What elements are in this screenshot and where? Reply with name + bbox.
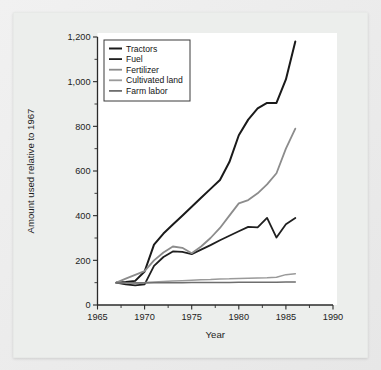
chart-container: 02004006008001,0001,200 1965197019751980… bbox=[0, 0, 381, 370]
legend-label-cultivated-land: Cultivated land bbox=[126, 75, 183, 85]
x-tick-label: 1975 bbox=[181, 312, 201, 322]
y-tick-label: 400 bbox=[75, 211, 90, 221]
line-chart: 02004006008001,0001,200 1965197019751980… bbox=[0, 0, 381, 370]
chart-legend: TractorsFuelFertilizerCultivated landFar… bbox=[104, 40, 190, 101]
figure-page: 02004006008001,0001,200 1965197019751980… bbox=[0, 0, 381, 370]
x-tick-label: 1985 bbox=[276, 312, 296, 322]
y-axis-ticks bbox=[93, 37, 98, 305]
x-tick-label: 1980 bbox=[229, 312, 249, 322]
y-tick-label: 200 bbox=[75, 256, 90, 266]
y-tick-label: 0 bbox=[85, 300, 90, 310]
y-axis-tick-labels: 02004006008001,0001,200 bbox=[68, 32, 91, 310]
legend-label-farm-labor: Farm labor bbox=[126, 86, 168, 96]
x-tick-label: 1965 bbox=[87, 312, 107, 322]
y-tick-label: 600 bbox=[75, 166, 90, 176]
legend-label-tractors: Tractors bbox=[126, 44, 157, 54]
y-tick-label: 1,000 bbox=[68, 77, 91, 87]
x-axis-title: Year bbox=[206, 329, 226, 340]
x-tick-label: 1970 bbox=[134, 312, 154, 322]
legend-label-fuel: Fuel bbox=[126, 54, 143, 64]
y-axis-title: Amount used relative to 1967 bbox=[25, 109, 36, 234]
y-tick-label: 1,200 bbox=[68, 32, 91, 42]
y-tick-label: 800 bbox=[75, 122, 90, 132]
x-tick-label: 1990 bbox=[323, 312, 343, 322]
x-axis-ticks bbox=[98, 305, 334, 310]
x-axis-tick-labels: 196519701975198019851990 bbox=[87, 312, 343, 322]
legend-label-fertilizer: Fertilizer bbox=[126, 65, 159, 75]
